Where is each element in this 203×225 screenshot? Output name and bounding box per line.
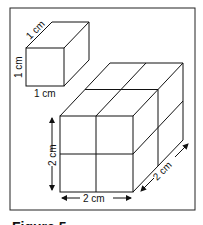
large-cube-height-label: 2 cm — [47, 144, 58, 166]
large-cube-width-label: 2 cm — [83, 193, 105, 204]
small-cube-depth-label: 1 cm — [24, 18, 47, 41]
figure-caption: Figure 5 — [12, 219, 67, 225]
figure-canvas: 1 cm 1 cm 1 cm 2 cm 2 cm 2 cm Figure 5 — [0, 0, 203, 225]
small-cube-width-label: 1 cm — [34, 88, 56, 99]
small-cube-height-label: 1 cm — [13, 56, 24, 78]
large-cube-depth-label: 2 cm — [151, 159, 174, 182]
